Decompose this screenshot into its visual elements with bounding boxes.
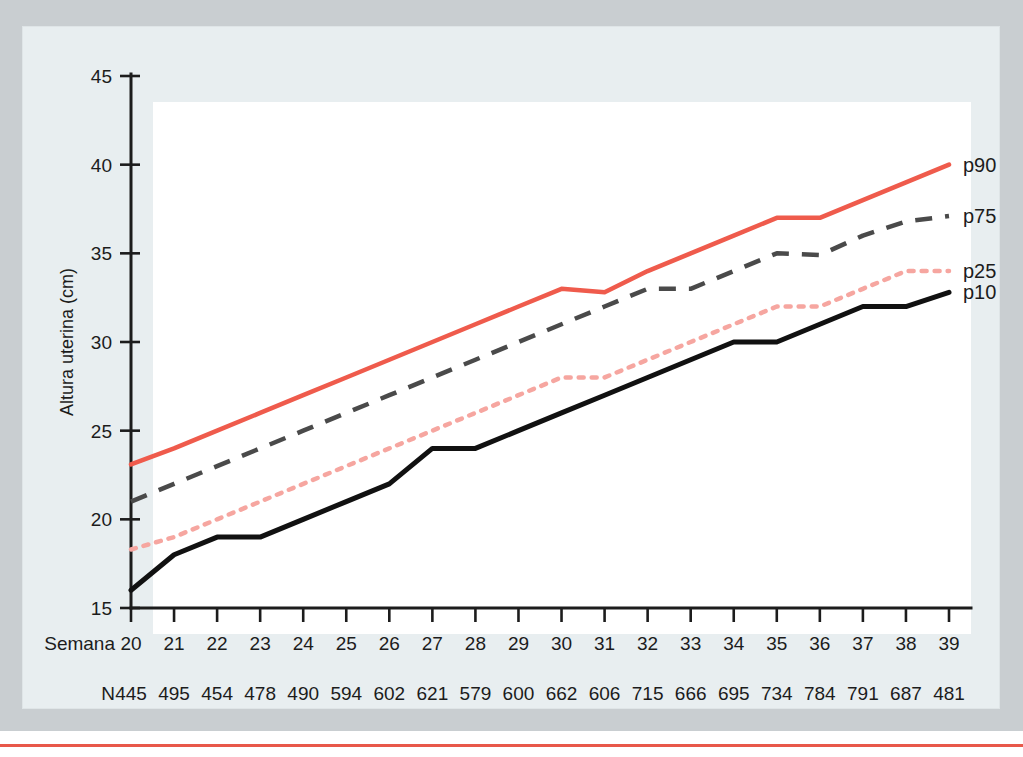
x-tick-label-34: 34	[723, 633, 745, 654]
n-value-34: 695	[718, 683, 750, 704]
n-value-22: 454	[201, 683, 233, 704]
n-value-24: 490	[287, 683, 319, 704]
row-label-semana: Semana	[44, 633, 115, 654]
x-tick-label-33: 33	[680, 633, 701, 654]
x-tick-label-28: 28	[465, 633, 486, 654]
x-tick-label-37: 37	[852, 633, 873, 654]
n-value-35: 734	[761, 683, 793, 704]
n-value-23: 478	[244, 683, 276, 704]
y-tick-label-20: 20	[91, 509, 112, 530]
series-label-p90: p90	[963, 154, 996, 176]
x-tick-label-35: 35	[766, 633, 787, 654]
x-tick-label-25: 25	[336, 633, 357, 654]
n-value-26: 602	[373, 683, 405, 704]
n-value-29: 600	[503, 683, 535, 704]
n-value-20: 445	[115, 683, 147, 704]
y-tick-label-40: 40	[91, 155, 112, 176]
series-line-p75	[131, 216, 949, 502]
series-label-p75: p75	[963, 205, 996, 227]
n-value-38: 687	[890, 683, 922, 704]
n-value-30: 662	[546, 683, 578, 704]
n-value-27: 621	[417, 683, 449, 704]
x-tick-label-36: 36	[809, 633, 830, 654]
n-value-28: 579	[460, 683, 492, 704]
n-value-39: 481	[933, 683, 965, 704]
y-tick-label-45: 45	[91, 66, 112, 87]
x-tick-label-26: 26	[379, 633, 400, 654]
y-tick-label-35: 35	[91, 243, 112, 264]
x-tick-label-21: 21	[163, 633, 184, 654]
x-tick-label-31: 31	[594, 633, 615, 654]
figure-root: 15202530354045Altura uterina (cm)2044521…	[0, 0, 1023, 757]
y-axis-title: Altura uterina (cm)	[57, 268, 77, 416]
n-value-37: 791	[847, 683, 879, 704]
x-tick-label-39: 39	[938, 633, 959, 654]
series-label-p10: p10	[963, 281, 996, 303]
y-tick-label-30: 30	[91, 332, 112, 353]
n-value-31: 606	[589, 683, 621, 704]
x-tick-label-20: 20	[120, 633, 141, 654]
n-value-21: 495	[158, 683, 190, 704]
x-tick-label-24: 24	[293, 633, 315, 654]
n-value-33: 666	[675, 683, 707, 704]
y-tick-label-25: 25	[91, 421, 112, 442]
x-tick-label-30: 30	[551, 633, 572, 654]
footer-band	[0, 731, 1023, 744]
footer-rule	[0, 744, 1023, 747]
n-value-32: 715	[632, 683, 664, 704]
series-line-p25	[131, 271, 949, 549]
x-tick-label-32: 32	[637, 633, 658, 654]
n-value-36: 784	[804, 683, 836, 704]
row-label-n: N	[101, 683, 115, 704]
x-tick-label-27: 27	[422, 633, 443, 654]
line-chart: 15202530354045Altura uterina (cm)2044521…	[22, 26, 1000, 709]
figure-panel: 15202530354045Altura uterina (cm)2044521…	[22, 26, 1000, 709]
series-label-p25: p25	[963, 260, 996, 282]
y-tick-label-15: 15	[91, 598, 112, 619]
x-tick-label-23: 23	[250, 633, 271, 654]
x-tick-label-22: 22	[207, 633, 228, 654]
x-tick-label-29: 29	[508, 633, 529, 654]
series-line-p10	[131, 292, 949, 590]
n-value-25: 594	[330, 683, 362, 704]
x-tick-label-38: 38	[895, 633, 916, 654]
